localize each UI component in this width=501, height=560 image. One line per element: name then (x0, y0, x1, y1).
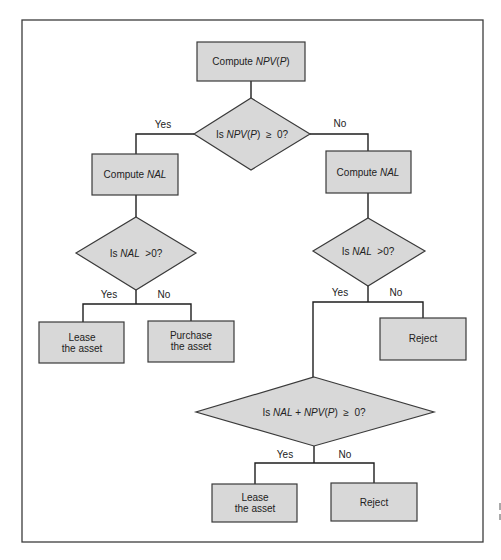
node-compute-npv-label: Compute NPV(P) (212, 56, 289, 67)
node-left-compute-nal: Compute NAL (92, 154, 178, 195)
node-right-decision-nal-label: Is NAL >0? (342, 246, 395, 257)
node-right-reject: Reject (380, 318, 466, 360)
node-left-purchase: Purchase the asset (148, 321, 234, 362)
node-left-lease-line1: Lease (68, 332, 96, 343)
edge-label-combined-yes: Yes (277, 449, 293, 460)
node-right-compute-nal: Compute NAL (326, 151, 411, 193)
node-bottom-reject-label: Reject (360, 497, 389, 508)
node-bottom-lease-line2: the asset (235, 503, 276, 514)
edge-label-left-nal-yes: Yes (101, 289, 117, 300)
node-combined-decision-label: Is NAL + NPV(P) ≥ 0? (262, 407, 366, 418)
node-compute-npv: Compute NPV(P) (197, 42, 305, 81)
edge-label-npv-yes: Yes (155, 119, 171, 130)
node-left-lease-line2: the asset (62, 343, 103, 354)
edge-label-left-nal-no: No (158, 289, 171, 300)
edge-label-right-nal-yes: Yes (332, 287, 348, 298)
node-decision-npv: Is NPV(P) ≥ 0? (194, 98, 310, 170)
node-right-decision-nal: Is NAL >0? (313, 218, 425, 286)
node-left-purchase-line1: Purchase (170, 330, 213, 341)
node-bottom-lease: Lease the asset (212, 484, 297, 522)
node-decision-npv-label: Is NPV(P) ≥ 0? (216, 129, 289, 140)
edge-label-npv-no: No (334, 118, 347, 129)
edge-label-combined-no: No (339, 449, 352, 460)
node-left-decision-nal-label: Is NAL >0? (110, 248, 163, 259)
node-left-decision-nal: Is NAL >0? (76, 217, 196, 290)
edge-label-right-nal-no: No (390, 287, 403, 298)
node-combined-decision: Is NAL + NPV(P) ≥ 0? (196, 377, 434, 446)
flowchart-diagram: Compute NPV(P) Is NPV(P) ≥ 0? Yes No Com… (0, 0, 501, 560)
node-bottom-lease-line1: Lease (241, 492, 269, 503)
node-left-purchase-line2: the asset (171, 341, 212, 352)
node-right-compute-nal-label: Compute NAL (337, 167, 400, 178)
node-left-compute-nal-label: Compute NAL (104, 169, 167, 180)
node-left-lease: Lease the asset (39, 322, 124, 363)
node-bottom-reject: Reject (331, 483, 417, 521)
node-right-reject-label: Reject (409, 333, 438, 344)
